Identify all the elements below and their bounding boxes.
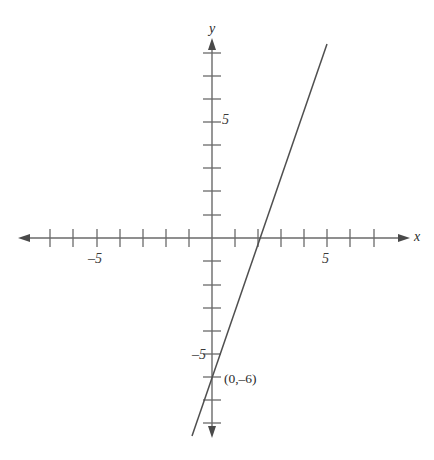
y-tick-label-negative-5: –5	[192, 348, 206, 362]
x-axis-arrow-right	[398, 234, 410, 242]
graph-figure: y x –5 5 5 –5 (0,–6)	[0, 0, 434, 460]
x-tick-label-negative-5: –5	[88, 252, 102, 266]
y-axis-arrow-down	[208, 426, 216, 438]
x-axis	[18, 234, 410, 242]
y-tick-label-positive-5: 5	[222, 113, 229, 127]
coordinate-plane-svg	[0, 0, 434, 460]
y-intercept-point-label: (0,–6)	[224, 372, 257, 386]
y-axis-label: y	[209, 22, 215, 36]
x-axis-label: x	[414, 230, 420, 244]
x-axis-arrow-left	[18, 234, 30, 242]
x-tick-label-positive-5: 5	[322, 252, 329, 266]
y-axis-arrow-up	[208, 38, 216, 50]
